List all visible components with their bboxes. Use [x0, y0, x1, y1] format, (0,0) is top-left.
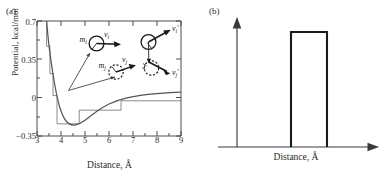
- velocity-j-prime-arrow: [149, 62, 171, 75]
- inset-label-mass-j: mj: [99, 61, 107, 71]
- panel-b-y-axis: [233, 17, 242, 147]
- velocity-i-arrow: [97, 41, 122, 47]
- x-axis-arrowhead: [368, 143, 380, 152]
- square-barrier-curve: [291, 32, 327, 147]
- contact-normal-line: [147, 43, 151, 48]
- particle-j-radius: [112, 67, 116, 72]
- inset-label-mass-i: mi: [80, 35, 88, 45]
- particle-i-radius: [92, 44, 97, 50]
- panel-a: (a) Potential, kcal/mol 0.7 0.35 0 −0.35…: [0, 0, 200, 179]
- continuous-potential-curve: [47, 21, 181, 125]
- figure-container: (a) Potential, kcal/mol 0.7 0.35 0 −0.35…: [0, 0, 386, 179]
- inset-label-velocity-j: vj: [122, 55, 128, 65]
- y-axis-arrowhead: [233, 17, 242, 29]
- inset-label-velocity-i: vi: [104, 30, 110, 40]
- panel-a-plot: mi mj vi vj vi′ vj′: [0, 0, 200, 179]
- step-approximation-curve: [47, 21, 181, 124]
- panel-b-x-axis: [218, 143, 379, 152]
- panel-b: (b) Distance, Å: [196, 0, 386, 179]
- inset-collision-diagram: mi mj vi vj vi′ vj′: [69, 24, 180, 91]
- panel-b-x-axis-title: Distance, Å: [236, 152, 356, 162]
- inset-label-velocity-i-prime: vi′: [172, 24, 179, 34]
- inset-label-velocity-j-prime: vj′: [172, 68, 179, 78]
